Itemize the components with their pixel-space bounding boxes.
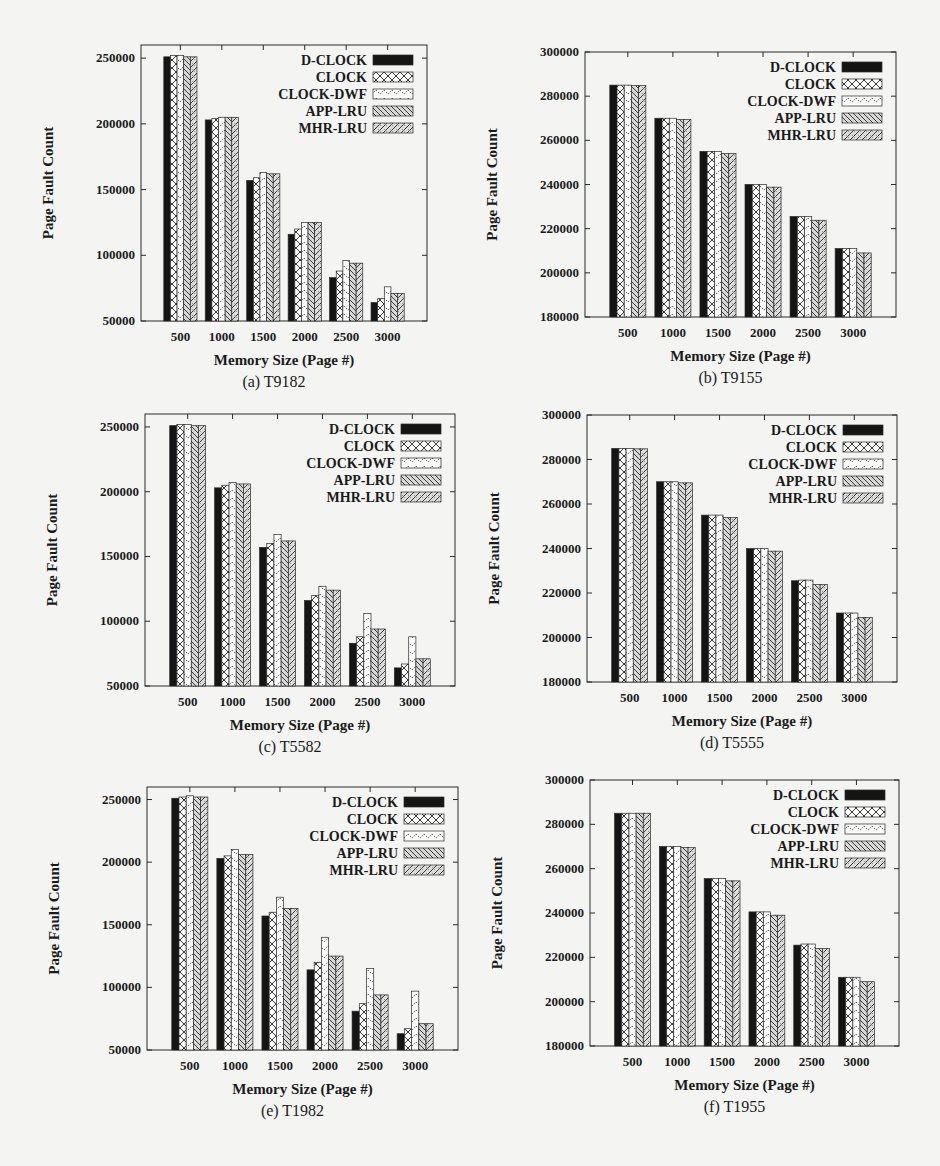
bar-mhr-lru xyxy=(288,541,295,686)
legend-swatch xyxy=(404,865,444,875)
bar-app-lru xyxy=(238,855,245,1050)
y-tick-label: 240000 xyxy=(545,905,584,920)
y-tick-label: 180000 xyxy=(545,1038,584,1053)
bar-d-clock xyxy=(170,426,177,686)
bar-mhr-lru xyxy=(865,617,872,682)
bar-clock-dwf xyxy=(260,172,267,321)
legend-label: CLOCK xyxy=(785,77,836,92)
bar-clock xyxy=(177,424,184,686)
bar-d-clock xyxy=(839,977,846,1046)
x-tick-label: 1000 xyxy=(222,1058,248,1073)
bar-clock xyxy=(212,119,219,321)
x-axis-title: Memory Size (Page #) xyxy=(232,1081,372,1098)
bar-d-clock xyxy=(835,249,842,317)
bar-app-lru xyxy=(633,449,640,682)
legend-swatch xyxy=(845,824,885,834)
bar-clock xyxy=(357,637,364,686)
bar-d-clock xyxy=(794,945,801,1046)
bar-clock xyxy=(754,549,761,683)
bar-d-clock xyxy=(704,879,711,1046)
x-tick-label: 2000 xyxy=(292,329,318,344)
bar-clock xyxy=(295,229,302,321)
bar-clock-dwf xyxy=(412,991,419,1050)
legend-swatch xyxy=(843,493,883,503)
y-tick-label: 100000 xyxy=(100,613,139,628)
bar-app-lru xyxy=(236,484,243,686)
bar-d-clock xyxy=(791,581,798,682)
bar-clock xyxy=(617,85,624,317)
y-tick-label: 300000 xyxy=(542,407,581,422)
bar-app-lru xyxy=(267,174,274,321)
bar-clock-dwf xyxy=(219,117,226,321)
y-axis-title: Page Fault Count xyxy=(489,857,505,970)
legend-label: MHR-LRU xyxy=(771,856,839,871)
legend-label: MHR-LRU xyxy=(327,490,395,505)
caption-d: (d) T5555 xyxy=(582,734,882,752)
bar-app-lru xyxy=(636,813,643,1046)
bar-app-lru xyxy=(374,995,381,1050)
bar-clock xyxy=(667,847,674,1047)
bar-clock xyxy=(312,595,319,686)
bar-clock xyxy=(842,249,849,317)
y-tick-label: 200000 xyxy=(545,994,584,1009)
bar-clock xyxy=(336,271,343,321)
y-tick-label: 240000 xyxy=(540,177,579,192)
legend-label: APP-LRU xyxy=(306,104,367,119)
bar-d-clock xyxy=(394,668,401,686)
bar-clock xyxy=(222,485,229,686)
y-tick-label: 250000 xyxy=(96,50,135,65)
bar-mhr-lru xyxy=(273,174,280,321)
legend-swatch xyxy=(845,790,885,800)
bar-d-clock xyxy=(172,798,179,1050)
legend-swatch xyxy=(404,814,444,824)
bar-d-clock xyxy=(655,118,662,317)
caption-c: (c) T5582 xyxy=(140,738,440,756)
x-axis-title: Memory Size (Page #) xyxy=(670,348,810,365)
y-axis-title: Page Fault Count xyxy=(46,862,62,975)
bar-clock-dwf xyxy=(276,897,283,1050)
bar-mhr-lru xyxy=(684,119,691,317)
bar-clock xyxy=(619,448,626,682)
bar-clock-dwf xyxy=(229,483,236,686)
bar-clock xyxy=(846,977,853,1046)
y-tick-label: 180000 xyxy=(542,674,581,689)
bar-clock-dwf xyxy=(367,969,374,1050)
x-tick-label: 1000 xyxy=(660,325,686,340)
legend-swatch xyxy=(842,62,882,72)
legend-label: CLOCK-DWF xyxy=(306,456,395,471)
bar-clock xyxy=(314,962,321,1050)
legend-swatch xyxy=(404,797,444,807)
chart-f: 1800002000002200002400002600002800003000… xyxy=(489,772,899,1094)
y-tick-label: 50000 xyxy=(109,1042,142,1057)
legend-swatch xyxy=(842,113,882,123)
bar-app-lru xyxy=(349,263,356,321)
x-axis-title: Memory Size (Page #) xyxy=(214,352,354,369)
x-tick-label: 2000 xyxy=(751,690,777,705)
bar-app-lru xyxy=(678,483,685,682)
caption-a: (a) T9182 xyxy=(124,373,424,391)
bar-clock-dwf xyxy=(186,796,193,1050)
bar-app-lru xyxy=(858,617,865,682)
legend-label: D-CLOCK xyxy=(301,53,367,68)
bar-d-clock xyxy=(702,515,709,682)
legend-label: MHR-LRU xyxy=(299,121,367,136)
y-tick-label: 200000 xyxy=(96,116,135,131)
legend-label: MHR-LRU xyxy=(768,128,836,143)
y-tick-label: 150000 xyxy=(100,548,139,563)
bar-mhr-lru xyxy=(820,585,827,682)
bar-mhr-lru xyxy=(198,426,205,686)
legend-label: APP-LRU xyxy=(337,846,398,861)
bar-d-clock xyxy=(371,303,378,321)
bar-clock xyxy=(269,912,276,1050)
y-axis-title: Page Fault Count xyxy=(484,128,500,241)
bar-mhr-lru xyxy=(822,948,829,1046)
legend-label: APP-LRU xyxy=(776,474,837,489)
x-tick-label: 1500 xyxy=(705,325,731,340)
bar-clock-dwf xyxy=(805,217,812,317)
bar-clock xyxy=(707,151,714,317)
legend-swatch xyxy=(843,425,883,435)
bar-mhr-lru xyxy=(640,449,647,682)
bar-d-clock xyxy=(746,549,753,683)
bar-app-lru xyxy=(723,517,730,682)
bar-d-clock xyxy=(700,151,707,317)
